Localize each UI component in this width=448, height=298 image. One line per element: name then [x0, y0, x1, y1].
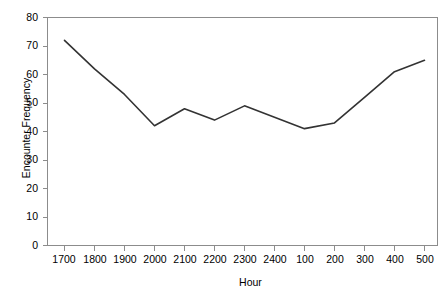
plot-area — [0, 0, 448, 298]
plot-frame — [48, 18, 438, 246]
y-axis-ticks — [43, 18, 48, 246]
line-chart: Encounter Frequency Hour 0 10 20 30 40 5… — [0, 0, 448, 298]
x-axis-ticks — [65, 246, 425, 251]
data-line-encounter-frequency — [65, 40, 425, 128]
